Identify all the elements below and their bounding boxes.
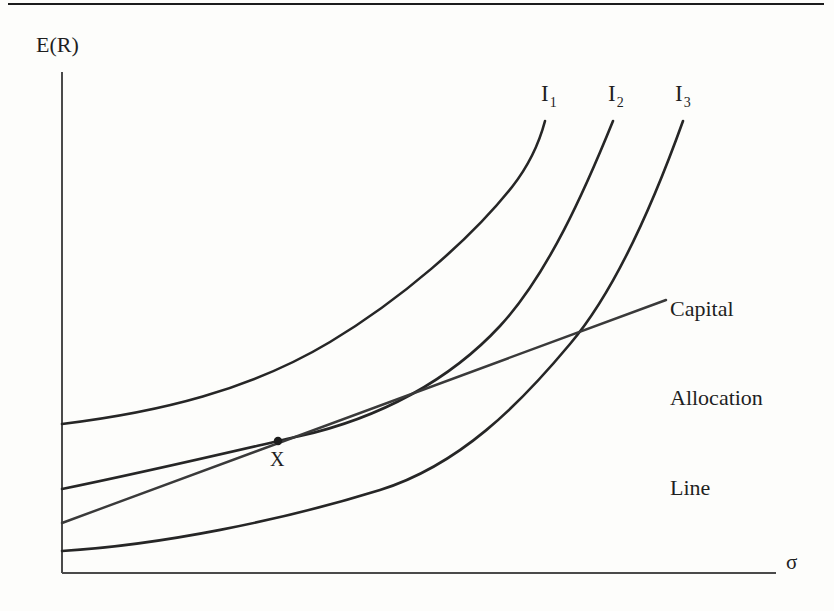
indifference-curve-i3 <box>62 121 683 551</box>
tangency-point-marker <box>274 437 282 445</box>
y-axis-label: E(R) <box>36 34 79 56</box>
curve-label-i3-subscript: 3 <box>684 95 691 110</box>
figure-canvas: E(R) σ X I1 I2 I3 Capital Allocation Lin… <box>0 0 834 611</box>
curve-label-i2-base: I <box>608 81 616 106</box>
x-axis-label: σ <box>786 552 797 573</box>
curve-label-i2-subscript: 2 <box>617 95 624 110</box>
capital-allocation-line <box>62 300 666 523</box>
tangency-point-label: X <box>270 449 284 469</box>
indifference-curve-i2 <box>62 121 613 489</box>
cal-label-line-1: Capital <box>670 294 763 324</box>
cal-label-line-2: Allocation <box>670 383 763 413</box>
curve-label-i1: I1 <box>541 82 556 105</box>
curve-label-i3: I3 <box>675 82 690 105</box>
capital-allocation-line-label: Capital Allocation Line <box>670 235 763 562</box>
cal-label-line-3: Line <box>670 473 763 503</box>
curve-label-i2: I2 <box>608 82 623 105</box>
curve-label-i1-base: I <box>541 81 549 106</box>
curve-label-i1-subscript: 1 <box>550 95 557 110</box>
curve-label-i3-base: I <box>675 81 683 106</box>
indifference-curve-i1 <box>62 121 545 424</box>
